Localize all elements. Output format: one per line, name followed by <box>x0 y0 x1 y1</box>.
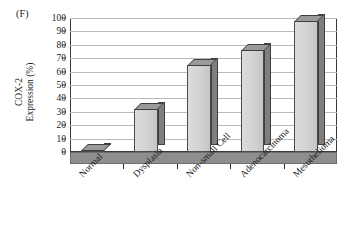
bar-front-face <box>294 21 317 152</box>
x-axis-category-labels: NormalDysplasiaNon-small CellAdenocarcin… <box>0 168 355 239</box>
bar <box>187 65 210 152</box>
y-axis-tick-mark <box>62 31 66 32</box>
bar-front-face <box>134 109 157 152</box>
y-axis-tick-mark <box>62 58 66 59</box>
bar <box>134 109 157 152</box>
y-axis-tick-mark <box>62 125 66 126</box>
y-axis-title-line2: Expression (%) <box>25 63 36 122</box>
bar-front-face <box>187 65 210 152</box>
y-axis-tick-mark <box>62 111 66 112</box>
bar-top-face <box>81 144 111 151</box>
bar-side-face <box>318 14 325 145</box>
plot-area <box>70 18 337 152</box>
bar-side-face <box>211 58 218 145</box>
bar <box>294 21 317 152</box>
y-axis-tick-mark <box>62 44 66 45</box>
y-axis-tick-labels: 0102030405060708090100 <box>40 0 66 175</box>
y-axis-title: COX-2 Expression (%) <box>14 42 36 142</box>
y-axis-tick-mark <box>62 152 66 153</box>
y-axis-tick-mark <box>62 98 66 99</box>
bar-side-face <box>264 43 271 145</box>
y-axis-tick-mark <box>62 71 66 72</box>
bar-front-face <box>241 50 264 152</box>
figure-panel: (F) COX-2 Expression (%) 010203040506070… <box>0 0 355 239</box>
panel-label: (F) <box>16 8 29 19</box>
bar <box>241 50 264 152</box>
y-axis-tick-mark <box>62 138 66 139</box>
bar-series <box>70 18 337 152</box>
y-axis-tick-mark <box>62 18 66 19</box>
y-axis-title-line1: COX-2 <box>14 63 25 122</box>
y-axis-tick-mark <box>62 85 66 86</box>
